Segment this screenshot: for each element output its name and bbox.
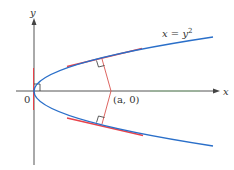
diagram-canvas: y x 0 x = y2 (a, 0)	[0, 0, 234, 170]
y-axis-label: y	[29, 7, 36, 18]
x-axis-label: x	[223, 86, 229, 97]
lower-tangent-line	[67, 118, 143, 136]
origin-label: 0	[24, 94, 30, 105]
curve-label-equation: x = y	[162, 28, 188, 39]
x-axis-arrow-icon	[213, 89, 220, 94]
curve-label-exponent: 2	[188, 27, 192, 35]
curve-label: x = y2	[162, 27, 193, 39]
lower-normal-line	[102, 91, 111, 124]
y-axis-arrow-icon	[32, 18, 37, 25]
upper-normal-line	[102, 59, 111, 91]
point-a-label: (a, 0)	[113, 94, 140, 105]
